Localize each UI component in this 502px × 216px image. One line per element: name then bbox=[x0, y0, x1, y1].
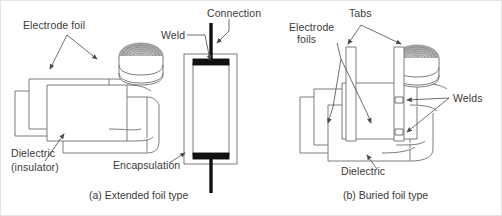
label-electrode-foils-line2: foils bbox=[297, 33, 316, 45]
label-connection: Connection bbox=[207, 7, 261, 19]
label-dielectric-insulator-line2: (insulator) bbox=[11, 161, 59, 173]
panel-b-artwork bbox=[300, 25, 449, 169]
figure-artwork bbox=[1, 1, 502, 216]
label-dielectric: Dielectric bbox=[341, 165, 385, 177]
label-weld: Weld bbox=[161, 29, 185, 41]
label-welds: Welds bbox=[453, 92, 482, 104]
label-encapsulation: Encapsulation bbox=[113, 159, 180, 171]
caption-panel-b: (b) Buried foil type bbox=[343, 189, 428, 201]
label-dielectric-insulator-line1: Dielectric bbox=[11, 147, 55, 159]
label-electrode-foils-line1: Electrode bbox=[289, 21, 334, 33]
label-tabs: Tabs bbox=[349, 7, 372, 19]
capacitor-construction-figure: Electrode foil Dielectric (insulator) We… bbox=[0, 0, 502, 216]
label-electrode-foil: Electrode foil bbox=[23, 19, 85, 31]
panel-a-artwork bbox=[15, 35, 163, 161]
caption-panel-a: (a) Extended foil type bbox=[89, 189, 188, 201]
